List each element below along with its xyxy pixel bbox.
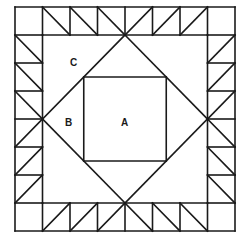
hst-diagonal <box>98 203 126 231</box>
hst-diagonal <box>208 175 236 203</box>
hst-diagonal <box>208 91 236 119</box>
hst-diagonal <box>208 147 236 175</box>
hst-diagonal <box>153 7 181 35</box>
hst-diagonal <box>43 7 71 35</box>
hst-diagonal <box>208 119 236 147</box>
hst-diagonal <box>153 203 181 231</box>
hst-diagonal <box>15 63 43 91</box>
hst-diagonal <box>125 7 153 35</box>
hst-diagonal <box>180 7 208 35</box>
hst-diagonal <box>98 7 126 35</box>
hst-diagonal <box>208 35 236 63</box>
hst-diagonal <box>125 203 153 231</box>
hst-diagonal <box>15 147 43 175</box>
label-a: A <box>121 117 128 128</box>
label-b: B <box>65 117 72 128</box>
hst-diagonal <box>180 203 208 231</box>
hst-diagonal <box>43 203 71 231</box>
hst-diagonal <box>15 119 43 147</box>
hst-diagonal <box>15 91 43 119</box>
hst-diagonal <box>70 203 98 231</box>
label-c: C <box>70 57 77 68</box>
hst-diagonal <box>15 175 43 203</box>
hst-diagonal <box>70 7 98 35</box>
quilt-block-diagram: C B A <box>0 0 242 242</box>
hst-diagonal <box>15 35 43 63</box>
hst-diagonal <box>208 63 236 91</box>
